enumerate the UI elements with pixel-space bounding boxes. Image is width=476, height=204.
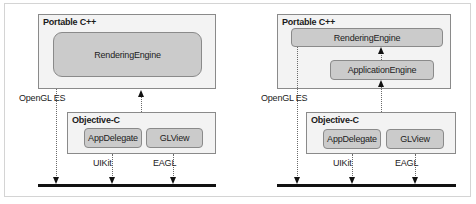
- eagl-label-right: EAGL: [395, 158, 418, 168]
- arrow-down-icon: [170, 177, 176, 184]
- platform-bar-left: [38, 184, 216, 187]
- app-delegate-right: AppDelegate: [323, 129, 381, 149]
- opengl-es-label-left: OpenGL ES: [19, 93, 65, 103]
- arrow-down-icon: [109, 177, 115, 184]
- platform-bar-right: [277, 184, 456, 187]
- objective-c-title: Objective-C: [72, 115, 120, 125]
- gl-view-right: GLView: [386, 129, 444, 149]
- portable-cpp-title: Portable C++: [282, 17, 335, 27]
- application-engine-right: ApplicationEngine: [330, 60, 434, 80]
- rendering-engine-right: RenderingEngine: [291, 28, 443, 47]
- arrow-down-icon: [349, 177, 355, 184]
- objc-to-app-connector: [381, 86, 382, 112]
- gl-view-left: GLView: [146, 128, 203, 148]
- eagl-label-left: EAGL: [153, 158, 176, 168]
- arrow-up-icon: [378, 80, 384, 87]
- arrow-down-icon: [53, 177, 59, 184]
- uikit-connector-left: [112, 154, 113, 178]
- app-delegate-left: AppDelegate: [84, 128, 142, 148]
- opengl-connector-right: [297, 47, 298, 178]
- arrow-up-icon: [378, 47, 384, 54]
- arrow-down-icon: [412, 177, 418, 184]
- uikit-label-left: UIKit: [93, 158, 112, 168]
- opengl-es-label-right: OpenGL ES: [261, 93, 307, 103]
- objc-to-rendering-connector: [141, 96, 142, 112]
- uikit-connector-right: [352, 154, 353, 178]
- rendering-engine-left: RenderingEngine: [53, 32, 202, 77]
- arrow-down-icon: [294, 177, 300, 184]
- portable-cpp-title: Portable C++: [43, 17, 96, 27]
- arrow-up-icon: [138, 90, 144, 97]
- objective-c-title: Objective-C: [311, 115, 359, 125]
- uikit-label-right: UIKit: [333, 158, 352, 168]
